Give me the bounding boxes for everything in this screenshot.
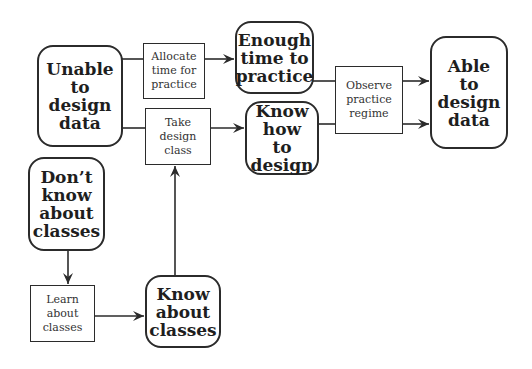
action-label: Observe practice regime [346, 79, 392, 121]
state-able-to-design-data: Able to design data [430, 36, 508, 149]
action-learn-about-classes: Learn about classes [30, 285, 95, 342]
state-dont-know-about-classes: Don’t know about classes [28, 157, 105, 251]
state-label: Unable to design data [46, 60, 113, 132]
action-take-design-class: Take design class [145, 108, 211, 165]
state-know-how-to-design: Know how to design [245, 101, 319, 175]
state-enough-time-to-practice: Enough time to practice [235, 21, 314, 94]
action-observe-practice-regime: Observe practice regime [335, 66, 403, 134]
state-label: Don’t know about classes [33, 168, 100, 240]
action-label: Learn about classes [43, 293, 83, 335]
state-label: Enough time to practice [236, 31, 314, 85]
state-know-about-classes: Know about classes [145, 275, 221, 348]
state-label: Know how to design [247, 102, 317, 174]
action-allocate-time-for-practice: Allocate time for practice [143, 43, 205, 99]
flowchart-canvas: Unable to design data Enough time to pra… [0, 0, 532, 369]
state-unable-to-design-data: Unable to design data [37, 45, 123, 147]
state-label: Able to design data [438, 57, 501, 129]
action-label: Allocate time for practice [151, 50, 197, 92]
action-label: Take design class [160, 116, 197, 158]
state-label: Know about classes [149, 285, 216, 339]
